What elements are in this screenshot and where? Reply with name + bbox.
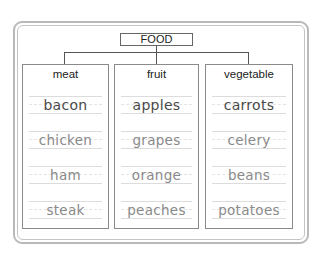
item-text: chicken bbox=[29, 132, 102, 148]
column-vegetable: vegetable carrots celery beans potatoes bbox=[205, 64, 293, 229]
item-text: potatoes bbox=[212, 202, 286, 218]
root-node-food: FOOD bbox=[120, 33, 193, 46]
list-item: orange bbox=[121, 166, 192, 184]
item-text: steak bbox=[29, 202, 102, 218]
list-item: carrots bbox=[212, 96, 286, 114]
column-meat: meat bacon chicken ham steak bbox=[22, 64, 109, 229]
column-heading-vegetable: vegetable bbox=[206, 68, 292, 80]
list-item: beans bbox=[212, 166, 286, 184]
item-text: carrots bbox=[212, 97, 286, 113]
list-item: steak bbox=[29, 201, 102, 219]
item-text: peaches bbox=[121, 202, 192, 218]
item-text: celery bbox=[212, 132, 286, 148]
column-heading-meat: meat bbox=[23, 68, 108, 80]
item-text: apples bbox=[121, 97, 192, 113]
list-item: celery bbox=[212, 131, 286, 149]
list-item: peaches bbox=[121, 201, 192, 219]
item-text: grapes bbox=[121, 132, 192, 148]
item-text: bacon bbox=[29, 97, 102, 113]
item-text: orange bbox=[121, 167, 192, 183]
column-fruit: fruit apples grapes orange peaches bbox=[114, 64, 199, 229]
root-label: FOOD bbox=[141, 33, 173, 45]
list-item: potatoes bbox=[212, 201, 286, 219]
item-text: ham bbox=[29, 167, 102, 183]
item-text: beans bbox=[212, 167, 286, 183]
list-item: ham bbox=[29, 166, 102, 184]
column-heading-fruit: fruit bbox=[115, 68, 198, 80]
connector-vegetable bbox=[248, 52, 249, 64]
connector-fruit bbox=[156, 52, 157, 64]
list-item: grapes bbox=[121, 131, 192, 149]
list-item: bacon bbox=[29, 96, 102, 114]
list-item: apples bbox=[121, 96, 192, 114]
list-item: chicken bbox=[29, 131, 102, 149]
connector-meat bbox=[64, 52, 65, 64]
